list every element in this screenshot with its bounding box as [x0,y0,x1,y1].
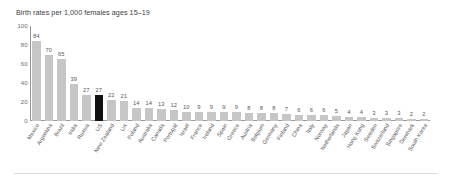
bar-slot: 14Poland [130,26,143,121]
bar-slot: 10Israel [180,26,193,121]
bar-slot: 70Argentina [43,26,56,121]
bar-slot: 3Singapore [393,26,406,121]
bar-rect [407,119,416,121]
bar-rect [282,114,291,121]
bar-value-label: 22 [108,93,114,99]
bar-slot: 6Norway [318,26,331,121]
bar-slot: 5Netherlands [330,26,343,121]
bar-slot: 22New Zealand [105,26,118,121]
bar-value-label: 9 [222,105,225,111]
y-tick-label: 40 [21,80,28,86]
bar-slot: 3Sweden [368,26,381,121]
bar-slot: 27Russia [80,26,93,121]
bar-slot: 9France [193,26,206,121]
bar-slot: 2South Korea [418,26,431,121]
bar-rect [120,101,129,121]
bar-rect [332,116,341,121]
y-tick-label: 80 [21,42,28,48]
bar-slot: 9Ireland [205,26,218,121]
bar-value-label: 2 [410,112,413,118]
bar-rect [370,118,379,121]
bar-category-label: US [95,123,104,133]
bar-slot: 8Germany [268,26,281,121]
bar-rect [195,112,204,121]
bar-value-label: 12 [171,103,177,109]
bar-rect [357,117,366,121]
bar-slot: 3Switzerland [380,26,393,121]
bar-rect [107,100,116,121]
bar-slot: 2Denmark [405,26,418,121]
bar-rect [182,112,191,122]
bar-value-label: 8 [247,106,250,112]
bar-rect [345,117,354,121]
bar-value-label: 7 [285,107,288,113]
bar-value-label: 6 [322,108,325,114]
bar-rect [257,113,266,121]
bar-slot: 12Portugal [168,26,181,121]
bar-category-label: Ireland [202,123,216,140]
bar-value-label: 8 [272,106,275,112]
bar-rect [395,118,404,121]
bars-row: 84Mexico70Argentina65Brazil39India27Russ… [30,26,430,121]
bar-value-label: 9 [197,105,200,111]
bar-value-label: 3 [385,111,388,117]
bar-value-label: 4 [347,110,350,116]
bar-rect [320,115,329,121]
bar-value-label: 27 [96,88,102,94]
bar-rect [132,108,141,121]
bar-value-label: 14 [146,101,152,107]
y-tick-label: 60 [21,61,28,67]
bar-rect [57,59,66,121]
bar-slot: 6Italy [305,26,318,121]
bar-rect [420,119,429,121]
bar-value-label: 5 [335,109,338,115]
bar-rect [45,55,54,122]
y-tick-label: 100 [17,23,27,29]
bar-value-label: 6 [297,108,300,114]
bar-value-label: 2 [422,112,425,118]
bar-slot: 8Belgium [255,26,268,121]
bar-rect [82,95,91,121]
bar-rect [270,113,279,121]
bar-slot: 6China [293,26,306,121]
bar-value-label: 4 [360,110,363,116]
bar-value-label: 13 [158,102,164,108]
footer-divider [14,173,437,174]
bar-slot: 8Austria [243,26,256,121]
bar-slot: 7Finland [280,26,293,121]
bar-category-label: UK [120,123,129,133]
bar-value-label: 10 [183,105,189,111]
bar-rect [170,110,179,121]
bar-slot: 9Spain [218,26,231,121]
bar-rect [307,115,316,121]
bar-rect [95,95,104,121]
bar-slot: 9Greece [230,26,243,121]
bar-value-label: 9 [235,105,238,111]
birth-rates-bar-chart: Birth rates per 1,000 females ages 15–19… [0,0,451,183]
bar-rect [207,112,216,121]
bar-value-label: 84 [33,34,39,40]
bar-value-label: 39 [71,77,77,83]
bar-rect [70,84,79,121]
bar-value-label: 9 [210,105,213,111]
bar-rect [32,41,41,121]
bar-value-label: 21 [121,94,127,100]
bar-value-label: 8 [260,106,263,112]
bar-value-label: 3 [397,111,400,117]
bar-category-label: Italy [306,123,316,135]
bar-value-label: 70 [46,48,52,54]
bar-category-label: China [291,123,303,138]
y-tick-label: 0 [24,118,27,124]
bar-slot: 65Brazil [55,26,68,121]
bar-rect [220,112,229,121]
bar-slot: 27US [93,26,106,121]
bar-slot: 21UK [118,26,131,121]
bar-category-label: France [190,123,204,141]
bar-slot: 39India [68,26,81,121]
chart-title: Birth rates per 1,000 females ages 15–19 [16,8,150,17]
bar-value-label: 14 [133,101,139,107]
bar-rect [157,109,166,121]
bar-value-label: 3 [372,111,375,117]
bar-value-label: 65 [58,52,64,58]
bar-slot: 4Hong Kong [355,26,368,121]
